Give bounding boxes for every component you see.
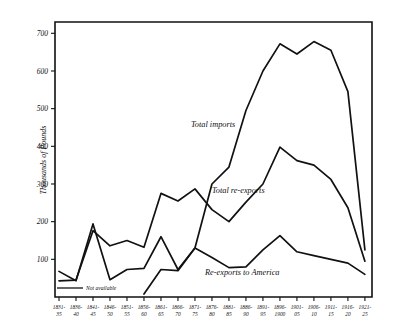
y-axis-title: Thousands of Pounds (39, 126, 48, 195)
not-available-label: Not available (85, 285, 117, 291)
x-tick-label: 1831-35 (53, 304, 66, 317)
x-tick-label: 1906-10 (308, 304, 321, 317)
x-tick-label: 1871-75 (189, 304, 202, 317)
x-tick-label: 1896-1900 (274, 304, 287, 317)
y-tick-label: 100 (37, 255, 49, 264)
y-tick-label: 200 (37, 217, 49, 226)
series-label-total-re-exports: Total re-exports (212, 186, 265, 195)
y-tick-label: 600 (37, 67, 49, 76)
x-tick-label: 1911-15 (325, 304, 337, 317)
not-available-annotation: Not available (57, 285, 117, 291)
x-tick-label: 1881-85 (223, 304, 236, 317)
x-axis-ticks: 1831-351836-401841-451846-501851-551856-… (53, 297, 372, 317)
x-tick-label: 1886-90 (240, 304, 253, 317)
series-label-total-imports: Total imports (191, 120, 235, 129)
x-tick-label: 1861-65 (155, 304, 168, 317)
y-tick-label: 500 (37, 104, 49, 113)
x-tick-label: 1866-70 (172, 304, 185, 317)
series-label-re-exports-to-america: Re-exports to America (204, 268, 280, 277)
chart-container: 100200300400500600700 1831-351836-401841… (0, 0, 399, 326)
x-tick-label: 1921-25 (359, 304, 372, 317)
x-tick-label: 1836-40 (70, 304, 83, 317)
data-series-group (59, 42, 365, 294)
y-axis-title-group: Thousands of Pounds (39, 126, 48, 195)
x-tick-label: 1846-50 (104, 304, 117, 317)
x-tick-label: 1901-05 (291, 304, 304, 317)
x-tick-label: 1916-20 (342, 304, 355, 317)
x-tick-label: 1876-80 (206, 304, 219, 317)
line-chart: 100200300400500600700 1831-351836-401841… (0, 0, 399, 326)
x-tick-label: 1851-55 (121, 304, 134, 317)
y-tick-label: 700 (37, 29, 49, 38)
series-line-re-exports-to-america (144, 236, 365, 294)
x-tick-label: 1856-60 (138, 304, 151, 317)
x-tick-label: 1891-95 (257, 304, 270, 317)
series-line-total-imports (59, 42, 365, 281)
x-tick-label: 1841-45 (87, 304, 100, 317)
